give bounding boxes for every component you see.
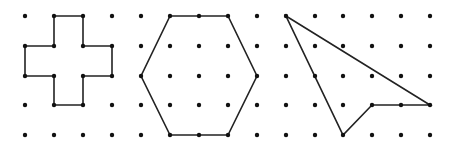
grid-dot	[284, 103, 288, 107]
grid-dot	[255, 74, 259, 78]
grid-dot	[341, 103, 345, 107]
grid-dot	[110, 74, 114, 78]
grid-dot	[255, 14, 259, 18]
grid-dot	[341, 74, 345, 78]
grid-dot	[313, 44, 317, 48]
grid-dot	[197, 44, 201, 48]
grid-dot	[81, 74, 85, 78]
grid-dot	[197, 14, 201, 18]
grid-dot	[399, 44, 403, 48]
grid-dot	[370, 74, 374, 78]
grid-dot	[23, 133, 27, 137]
grid-dot	[399, 14, 403, 18]
grid-dot	[313, 103, 317, 107]
arrow-polygon	[286, 16, 430, 135]
grid-dot	[139, 133, 143, 137]
grid-dot	[139, 74, 143, 78]
grid-dot	[370, 103, 374, 107]
grid-dot	[341, 133, 345, 137]
grid-dot	[399, 74, 403, 78]
grid-dot	[255, 133, 259, 137]
dot-grid-figure	[0, 0, 456, 153]
grid-dot	[23, 74, 27, 78]
grid-dot	[168, 14, 172, 18]
grid-dot	[168, 133, 172, 137]
grid-dot	[255, 103, 259, 107]
grid-dot	[197, 74, 201, 78]
grid-dot	[428, 133, 432, 137]
grid-dot	[110, 44, 114, 48]
grid-dot	[110, 103, 114, 107]
grid-dot	[226, 103, 230, 107]
grid-dot	[226, 74, 230, 78]
grid-dot	[341, 44, 345, 48]
grid-dot	[52, 44, 56, 48]
grid-dot	[428, 74, 432, 78]
grid-dot	[370, 133, 374, 137]
grid-dot	[168, 74, 172, 78]
grid-dot	[23, 14, 27, 18]
grid-dot	[313, 133, 317, 137]
grid-dot	[370, 14, 374, 18]
grid-dot	[23, 103, 27, 107]
grid-dot	[284, 14, 288, 18]
grid-dot	[284, 74, 288, 78]
dot-grid	[23, 14, 432, 137]
cross-polygon	[25, 16, 112, 105]
grid-dot	[226, 44, 230, 48]
grid-dot	[81, 14, 85, 18]
grid-dot	[197, 103, 201, 107]
grid-dot	[139, 103, 143, 107]
grid-dot	[52, 133, 56, 137]
grid-dot	[284, 44, 288, 48]
grid-dot	[428, 14, 432, 18]
grid-dot	[52, 74, 56, 78]
grid-dot	[313, 14, 317, 18]
grid-dot	[428, 44, 432, 48]
grid-dot	[168, 103, 172, 107]
grid-dot	[52, 14, 56, 18]
grid-dot	[110, 14, 114, 18]
grid-dot	[81, 133, 85, 137]
grid-dot	[428, 103, 432, 107]
grid-dot	[399, 103, 403, 107]
grid-dot	[399, 133, 403, 137]
grid-dot	[110, 133, 114, 137]
grid-dot	[139, 44, 143, 48]
grid-dot	[23, 44, 27, 48]
grid-dot	[197, 133, 201, 137]
grid-dot	[284, 133, 288, 137]
grid-dot	[226, 133, 230, 137]
grid-dot	[341, 14, 345, 18]
grid-dot	[255, 44, 259, 48]
grid-dot	[226, 14, 230, 18]
grid-dot	[81, 44, 85, 48]
grid-dot	[81, 103, 85, 107]
grid-dot	[370, 44, 374, 48]
grid-dot	[139, 14, 143, 18]
grid-dot	[52, 103, 56, 107]
grid-dot	[313, 74, 317, 78]
grid-dot	[168, 44, 172, 48]
